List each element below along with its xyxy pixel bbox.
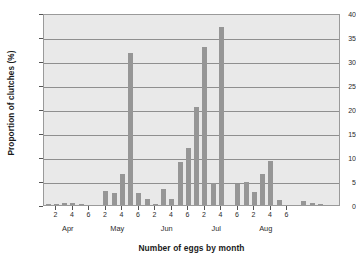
x-tick-label: 6 — [179, 211, 195, 218]
gridline — [44, 135, 339, 136]
x-tick-mark — [72, 206, 73, 210]
x-tick-label: 2 — [245, 211, 261, 218]
gridline — [44, 87, 339, 88]
gridline — [44, 15, 339, 16]
bar — [120, 174, 125, 205]
x-tick-label: 2 — [196, 211, 212, 218]
bar — [186, 148, 191, 205]
bar — [128, 53, 133, 205]
x-tick-mark — [121, 206, 122, 210]
x-tick-label: 6 — [80, 211, 96, 218]
x-axis-month-label: Aug — [246, 224, 286, 233]
bar — [112, 193, 117, 205]
bar — [46, 204, 51, 205]
x-tick-mark — [55, 206, 56, 210]
x-tick-label: 4 — [212, 211, 228, 218]
x-tick-mark — [88, 206, 89, 210]
bar — [70, 203, 75, 205]
x-axis-title: Number of eggs by month — [43, 243, 340, 253]
bar — [62, 203, 67, 205]
x-tick-label: 2 — [97, 211, 113, 218]
bar — [153, 204, 158, 205]
x-axis-month-label: May — [97, 224, 137, 233]
x-tick-mark — [286, 206, 287, 210]
bar — [169, 199, 174, 205]
bar — [219, 27, 224, 205]
x-axis-month-label: Jun — [147, 224, 187, 233]
x-tick-mark — [270, 206, 271, 210]
x-tick-label: 6 — [229, 211, 245, 218]
x-tick-mark — [237, 206, 238, 210]
x-tick-label: 4 — [113, 211, 129, 218]
bar — [277, 200, 282, 205]
gridline — [44, 183, 339, 184]
x-axis-month-label: Apr — [48, 224, 88, 233]
x-axis-month-label: Jul — [196, 224, 236, 233]
bar — [318, 204, 323, 205]
x-tick-mark — [138, 206, 139, 210]
x-tick-mark — [220, 206, 221, 210]
bar — [103, 191, 108, 205]
bar — [202, 47, 207, 205]
x-tick-label: 6 — [278, 211, 294, 218]
bar — [136, 193, 141, 205]
gridline — [44, 159, 339, 160]
bar — [301, 201, 306, 205]
bar — [161, 189, 166, 205]
y-axis-title: Proportion of clutches (%) — [4, 0, 18, 206]
x-tick-label: 4 — [163, 211, 179, 218]
x-tick-label: 4 — [64, 211, 80, 218]
gridline — [44, 39, 339, 40]
chart-figure: Proportion of clutches (%) 0510152025303… — [0, 0, 356, 264]
x-tick-mark — [105, 206, 106, 210]
bar — [79, 204, 84, 205]
x-tick-label: 6 — [130, 211, 146, 218]
bar — [54, 204, 59, 205]
bar — [268, 161, 273, 205]
bar — [244, 182, 249, 205]
plot-area — [43, 14, 340, 206]
bar — [235, 184, 240, 205]
bar — [252, 192, 257, 205]
gridline — [44, 111, 339, 112]
y-tick-mark — [39, 206, 43, 207]
x-tick-label: 2 — [47, 211, 63, 218]
x-tick-mark — [253, 206, 254, 210]
bar — [178, 162, 183, 205]
gridline — [44, 63, 339, 64]
bar — [211, 183, 216, 205]
bar — [194, 107, 199, 205]
bar — [260, 174, 265, 205]
bar — [145, 199, 150, 205]
x-tick-mark — [204, 206, 205, 210]
x-tick-label: 4 — [262, 211, 278, 218]
x-tick-label: 2 — [146, 211, 162, 218]
x-tick-mark — [171, 206, 172, 210]
x-tick-mark — [187, 206, 188, 210]
bar — [310, 203, 315, 205]
x-tick-mark — [154, 206, 155, 210]
